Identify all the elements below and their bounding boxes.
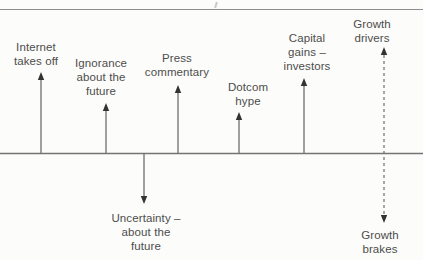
internet-takes-off-arrow bbox=[38, 72, 44, 153]
arrow-up-head-icon bbox=[38, 72, 44, 80]
figure-canvas: Internet takes off Ignorance about the f… bbox=[0, 0, 423, 260]
ignorance-arrow bbox=[103, 103, 109, 153]
label-growth-drivers: Growth drivers bbox=[353, 17, 391, 45]
press-commentary-arrow bbox=[175, 85, 181, 153]
arrow-up-head-icon bbox=[103, 103, 109, 111]
arrow-up-head-icon bbox=[175, 85, 181, 93]
label-internet-takes-off: Internet takes off bbox=[14, 40, 58, 68]
capital-gains-arrow bbox=[301, 78, 307, 153]
label-ignorance-about-future: Ignorance about the future bbox=[75, 56, 127, 98]
arrow-up-head-icon bbox=[381, 47, 387, 55]
uncertainty-arrow bbox=[141, 154, 147, 204]
label-uncertainty-about-future: Uncertainty – about the future bbox=[111, 211, 180, 253]
arrow-up-head-icon bbox=[236, 112, 242, 120]
arrow-up-head-icon bbox=[301, 78, 307, 86]
label-capital-gains-investors: Capital gains – investors bbox=[284, 31, 331, 73]
label-dotcom-hype: Dotcom hype bbox=[228, 80, 268, 108]
growth-axis-dashed-arrow bbox=[381, 47, 387, 223]
dotcom-hype-arrow bbox=[236, 112, 242, 153]
arrow-down-head-icon bbox=[141, 196, 147, 204]
arrow-down-head-icon bbox=[381, 215, 387, 223]
label-growth-brakes: Growth brakes bbox=[361, 228, 399, 256]
label-press-commentary: Press commentary bbox=[145, 51, 209, 79]
